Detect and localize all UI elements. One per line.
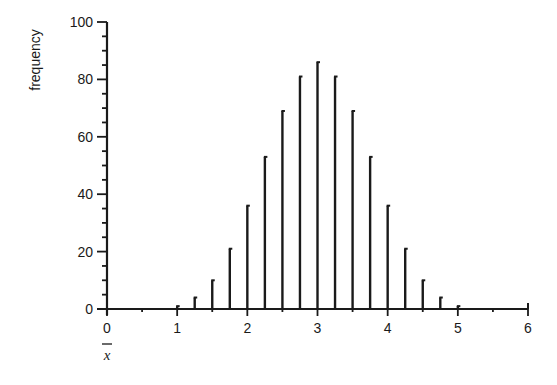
x-tick-label: 3 (314, 320, 322, 336)
chart: frequency 020406080100 0123456 x (0, 0, 557, 385)
y-tick-label: 80 (77, 71, 93, 87)
x-axis-title: x (102, 344, 112, 363)
x-tick-label: 0 (103, 320, 111, 336)
x-tick-label: 1 (173, 320, 181, 336)
x-tick-label: 6 (524, 320, 532, 336)
x-tick-label: 5 (454, 320, 462, 336)
x-tick-label: 2 (243, 320, 251, 336)
svg-text:x: x (103, 347, 111, 363)
y-tick-label: 0 (85, 301, 93, 317)
y-tick-label: 40 (77, 186, 93, 202)
y-tick-label: 100 (70, 14, 94, 30)
y-tick-label: 60 (77, 129, 93, 145)
y-axis: 020406080100 (70, 14, 107, 317)
y-axis-title: frequency (27, 29, 43, 90)
y-tick-label: 20 (77, 244, 93, 260)
bars (176, 62, 460, 309)
x-axis: 0123456 (97, 303, 532, 336)
x-tick-label: 4 (384, 320, 392, 336)
